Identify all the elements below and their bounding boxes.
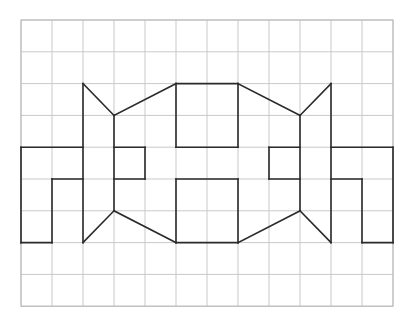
grid-diagram — [0, 0, 413, 322]
figure-segment — [83, 211, 114, 243]
figure-segment — [300, 211, 331, 243]
figure-segment — [300, 84, 331, 116]
grid-lines — [21, 20, 393, 306]
figure-segment — [83, 84, 114, 116]
